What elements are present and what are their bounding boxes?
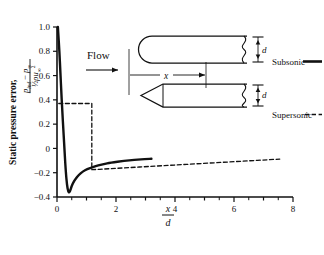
subsonic-probe-tail-break <box>242 36 245 63</box>
y-axis-label: Static pressure error, pind−p∞ ½ρu∞2 <box>8 59 42 165</box>
y-tick-label-7: −0.4 <box>34 192 51 202</box>
chart-svg: 1.00.80.60.40.20−0.2−0.4 02468 Static pr… <box>0 0 324 255</box>
flow-label: Flow <box>87 49 110 61</box>
x-tick-label-0: 0 <box>55 204 60 214</box>
supersonic-probe-body <box>141 84 247 107</box>
flow-arrow-head <box>112 67 118 72</box>
y-tick-label-4: 0.2 <box>39 119 50 129</box>
y-axis-tick-labels: 1.00.80.60.40.20−0.2−0.4 <box>34 22 51 202</box>
x-tick-label-8: 8 <box>291 204 296 214</box>
x-dim-arrow-head <box>199 72 205 77</box>
y-tick-label-3: 0.4 <box>39 95 51 105</box>
legend-item-subsonic[interactable]: Subsonic <box>272 57 322 67</box>
y-axis-fraction: pind−p∞ ½ρu∞2 <box>20 59 43 94</box>
legend-item-supersonic[interactable]: Supersonic <box>272 110 322 120</box>
y-tick-label-5: 0 <box>46 144 51 154</box>
supersonic-probe-diagram: d <box>141 84 267 107</box>
x-frac-denominator: d <box>166 217 172 228</box>
supersonic-diameter-label: d <box>262 90 267 100</box>
x-dim-label: x <box>163 71 169 81</box>
y-axis-label-text: Static pressure error, <box>8 79 18 165</box>
flow-annotation: Flow <box>86 49 118 73</box>
y-tick-label-1: 0.8 <box>39 46 51 56</box>
subsonic-diameter-label: d <box>262 45 267 55</box>
supersonic-diameter-arrow-down <box>256 99 261 104</box>
subsonic-diameter-arrow-down <box>256 54 261 59</box>
supersonic-diameter-arrow-up <box>256 88 261 93</box>
supersonic-probe-tail-break <box>242 84 245 107</box>
subsonic-diameter-arrow-up <box>256 40 261 45</box>
x-frac-numerator: x <box>165 203 171 214</box>
subsonic-probe-diagram: d <box>139 36 267 63</box>
series-line-supersonic <box>59 104 280 170</box>
x-tick-label-2: 2 <box>114 204 119 214</box>
chart-figure: 1.00.80.60.40.20−0.2−0.4 02468 Static pr… <box>0 0 324 255</box>
x-tick-label-4: 4 <box>173 204 178 214</box>
x-tick-label-6: 6 <box>232 204 237 214</box>
y-tick-label-0: 1.0 <box>39 22 51 32</box>
subsonic-probe-body <box>139 36 247 63</box>
legend-label-subsonic: Subsonic <box>272 57 305 67</box>
y-tick-label-6: −0.2 <box>34 168 50 178</box>
x-axis-tick-labels: 02468 <box>55 204 296 214</box>
legend: Subsonic Supersonic <box>272 57 322 120</box>
